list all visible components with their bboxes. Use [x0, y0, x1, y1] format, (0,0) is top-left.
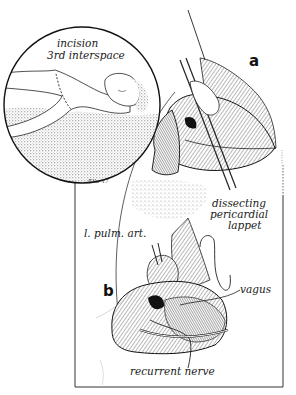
- panel-b-letter: b: [103, 282, 114, 300]
- label-recurrent-nerve: recurrent nerve: [130, 366, 215, 377]
- label-left-pulmonary-artery: l. pulm. art.: [84, 228, 146, 239]
- label-lappet: lappet: [228, 220, 262, 231]
- inset-label-incision: incision: [57, 38, 98, 49]
- surgical-illustration: incision 3rd interspace F.Ilu '17 a diss…: [0, 0, 296, 395]
- stippled-tissue: [130, 179, 207, 219]
- inset-label-interspace: 3rd interspace: [47, 50, 125, 61]
- artist-signature: F.Ilu '17: [88, 178, 108, 184]
- panel-a-letter: a: [249, 52, 259, 70]
- panel-a-drawing: [152, 10, 282, 190]
- label-vagus: vagus: [240, 284, 271, 295]
